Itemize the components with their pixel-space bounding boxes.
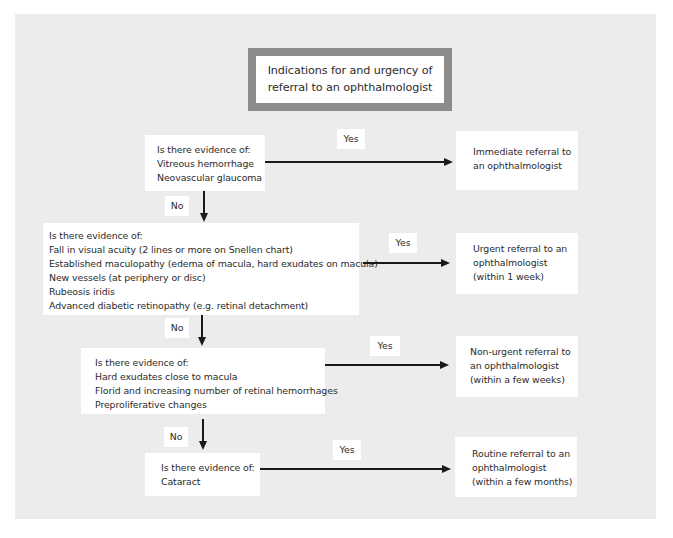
outcome-box-routine: Routine referral to an ophthalmologist (… bbox=[455, 437, 577, 497]
no-label-3: No bbox=[164, 427, 188, 447]
decision-box-2: Is there evidence of: Fall in visual acu… bbox=[43, 223, 359, 315]
arrow-right-icon bbox=[444, 158, 453, 166]
decision-1-question: Is there evidence of: bbox=[157, 143, 265, 157]
outcome-4-text: (within a few months) bbox=[472, 475, 577, 489]
decision-box-1: Is there evidence of: Vitreous hemorrhag… bbox=[145, 135, 265, 191]
outcome-2-text: (within 1 week) bbox=[473, 270, 578, 284]
arrow-down-icon bbox=[200, 213, 208, 222]
arrow-down-icon bbox=[199, 441, 207, 450]
decision-4-item: Cataract bbox=[161, 475, 260, 489]
yes-label-1: Yes bbox=[337, 129, 365, 149]
yes-connector-1 bbox=[265, 161, 446, 163]
decision-2-item: Advanced diabetic retinopathy (e.g. reti… bbox=[49, 299, 359, 313]
decision-3-question: Is there evidence of: bbox=[95, 356, 325, 370]
outcome-2-text: Urgent referral to an bbox=[473, 242, 578, 256]
arrow-right-icon bbox=[442, 465, 451, 473]
no-label-1: No bbox=[165, 196, 189, 216]
decision-box-4: Is there evidence of: Cataract bbox=[145, 453, 260, 496]
outcome-box-urgent: Urgent referral to an ophthalmologist (w… bbox=[456, 233, 578, 294]
decision-2-item: Rubeosis iridis bbox=[49, 285, 359, 299]
decision-1-item: Neovascular glaucoma bbox=[157, 171, 265, 185]
decision-2-item: Fall in visual acuity (2 lines or more o… bbox=[49, 243, 359, 257]
decision-2-item: Established maculopathy (edema of macula… bbox=[49, 257, 359, 271]
title-line-2: referral to an ophthalmologist bbox=[256, 79, 444, 96]
no-label-2: No bbox=[165, 318, 189, 338]
decision-1-item: Vitreous hemorrhage bbox=[157, 157, 265, 171]
decision-4-question: Is there evidence of: bbox=[161, 461, 260, 475]
outcome-4-text: ophthalmologist bbox=[472, 461, 577, 475]
decision-box-3: Is there evidence of: Hard exudates clos… bbox=[81, 348, 325, 414]
outcome-4-text: Routine referral to an bbox=[472, 447, 577, 461]
outcome-1-text: Immediate referral to bbox=[473, 145, 578, 159]
arrow-down-icon bbox=[198, 337, 206, 346]
decision-2-question: Is there evidence of: bbox=[49, 229, 359, 243]
yes-connector-4 bbox=[260, 468, 444, 470]
title-line-1: Indications for and urgency of bbox=[256, 62, 444, 79]
decision-3-item: Hard exudates close to macula bbox=[95, 370, 325, 384]
yes-connector-2 bbox=[363, 262, 443, 264]
outcome-3-text: an ophthalmologist bbox=[470, 359, 578, 373]
yes-connector-3 bbox=[325, 364, 442, 366]
decision-3-item: Preproliferative changes bbox=[95, 398, 325, 412]
yes-label-2: Yes bbox=[389, 233, 417, 253]
outcome-3-text: Non-urgent referral to bbox=[470, 345, 578, 359]
yes-label-4: Yes bbox=[333, 440, 361, 460]
outcome-2-text: ophthalmologist bbox=[473, 256, 578, 270]
arrow-right-icon bbox=[440, 361, 449, 369]
outcome-1-text: an ophthalmologist bbox=[473, 159, 578, 173]
arrow-right-icon bbox=[441, 259, 450, 267]
outcome-box-non-urgent: Non-urgent referral to an ophthalmologis… bbox=[456, 336, 578, 397]
decision-3-item: Florid and increasing number of retinal … bbox=[95, 384, 325, 398]
outcome-box-immediate: Immediate referral to an ophthalmologist bbox=[456, 131, 578, 190]
yes-label-3: Yes bbox=[370, 336, 400, 356]
diagram-title: Indications for and urgency of referral … bbox=[248, 48, 452, 111]
decision-2-item: New vessels (at periphery or disc) bbox=[49, 271, 359, 285]
outcome-3-text: (within a few weeks) bbox=[470, 373, 578, 387]
